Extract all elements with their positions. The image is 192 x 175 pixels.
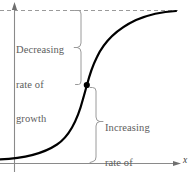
- increasing-rate-label: Increasing rate of growth: [105, 99, 150, 175]
- decreasing-rate-label: Decreasing rate of growth: [16, 21, 64, 148]
- y-axis-arrow-icon: [12, 2, 17, 10]
- increasing-rate-label-line2: rate of: [105, 157, 150, 169]
- decreasing-rate-brace: [74, 11, 81, 85]
- x-axis-arrow-icon: [173, 161, 181, 166]
- x-axis-label: x: [183, 155, 187, 165]
- increasing-rate-label-line1: Increasing: [105, 122, 150, 134]
- decreasing-rate-label-line1: Decreasing: [16, 44, 64, 56]
- growth-rate-figure: Decreasing rate of growth Increasing rat…: [0, 0, 192, 175]
- decreasing-rate-label-line3: growth: [16, 113, 64, 125]
- increasing-rate-brace: [90, 88, 103, 163]
- decreasing-rate-label-line2: rate of: [16, 79, 64, 91]
- inflection-point-dot: [84, 82, 90, 88]
